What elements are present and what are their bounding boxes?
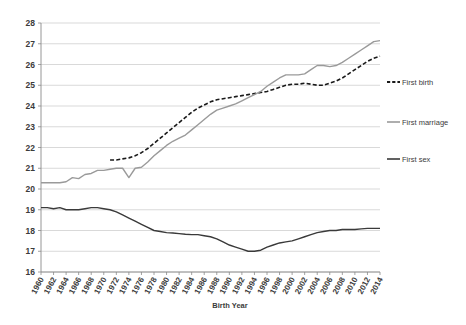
y-tick-label: 16 [26,267,36,277]
legend-label-first-sex: First sex [402,155,431,164]
y-tick-label: 19 [26,205,36,215]
data-series [41,41,380,252]
y-tick-label: 17 [26,246,36,256]
y-axis-tick-labels: 16171819202122232425262728 [26,18,41,277]
line-chart: 1960196219641966196819701972197419761978… [0,0,466,325]
chart-container: 1960196219641966196819701972197419761978… [0,0,466,325]
y-tick-label: 18 [26,226,36,236]
legend-label-first-marriage: First marriage [402,118,448,127]
y-tick-label: 28 [26,18,36,28]
x-axis-title: Birth Year [212,301,247,310]
series-line-first-marriage [41,41,380,183]
legend-label-first-birth: First birth [402,78,433,87]
series-line-first-sex [41,208,380,252]
y-tick-label: 25 [26,80,36,90]
y-tick-label: 27 [26,39,36,49]
y-tick-label: 20 [26,184,36,194]
x-axis-tick-labels: 1960196219641966196819701972197419761978… [29,272,385,296]
x-tick-label: 2014 [368,275,385,295]
y-tick-label: 24 [26,101,36,111]
series-line-first-birth [110,56,380,160]
gridlines [41,23,380,272]
y-tick-label: 21 [26,163,36,173]
chart-legend: First birthFirst marriageFirst sex [387,78,448,164]
y-tick-label: 23 [26,122,36,132]
y-tick-label: 26 [26,60,36,70]
y-tick-label: 22 [26,143,36,153]
